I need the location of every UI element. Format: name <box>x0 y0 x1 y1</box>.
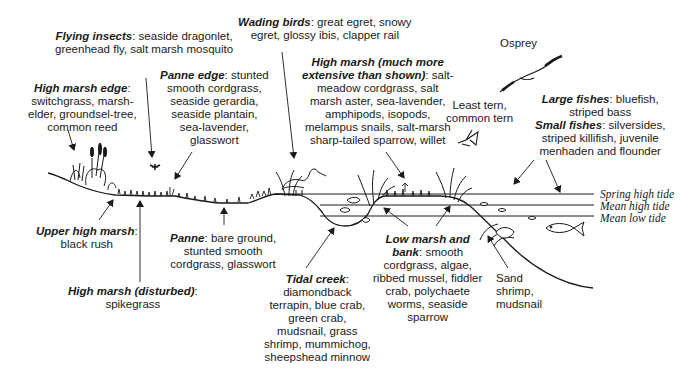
low-marsh-title: Low marsh and <box>385 233 469 245</box>
label-flying-insects: Flying insects: seaside dragonlet, green… <box>55 30 233 56</box>
fish-drawings <box>340 197 584 238</box>
panne-title: Panne <box>170 232 205 244</box>
terns-line: Least tern, <box>452 99 506 111</box>
wading-birds-line2: egret, glossy ibis, clapper rail <box>251 29 399 41</box>
tidal-creek-line: mudsnail, grass <box>277 325 358 337</box>
high-marsh-title: extensive than shown) <box>302 69 425 81</box>
terns-line: common tern <box>446 112 513 124</box>
label-low-marsh: Low marsh and bank: smooth cordgrass, al… <box>373 233 482 324</box>
label-high-marsh: High marsh (much more extensive than sho… <box>302 56 453 147</box>
tidal-creek-text: : <box>346 273 349 285</box>
low-marsh-line: sparrow <box>407 311 448 323</box>
low-marsh-line: ribbed mussel, fiddler <box>373 272 482 284</box>
label-high-marsh-edge: High marsh edge: switchgrass, marsh- eld… <box>28 82 137 134</box>
small-fishes-title: Small fishes <box>535 119 602 131</box>
high-marsh-line: melampus snails, salt-marsh <box>305 121 451 133</box>
low-marsh-text: : smooth <box>419 246 463 258</box>
label-high-marsh-disturbed: High marsh (disturbed): spikegrass <box>68 285 198 311</box>
tidal-creek-line: sheepshead minnow <box>265 351 371 363</box>
small-fishes-line: menhaden and flounder <box>539 145 661 157</box>
low-marsh-line: worms, seaside <box>388 298 468 310</box>
upper-high-marsh-title: Upper high marsh <box>36 225 134 237</box>
high-marsh-edge-line: elder, groundsel-tree, <box>28 108 137 120</box>
label-mean-low-tide: Mean low tide <box>600 212 666 225</box>
sand-shrimp-line: shrimp, <box>496 285 534 297</box>
panne-edge-title: Panne edge <box>160 69 225 81</box>
wading-birds-text: : great egret, snowy <box>311 16 412 28</box>
high-marsh-line: sharp-tailed sparrow, willet <box>310 134 446 146</box>
high-marsh-edge-line: common reed <box>47 121 117 133</box>
sand-shrimp-line: Sand <box>496 272 523 284</box>
tidal-creek-line: terrapin, blue crab, <box>269 299 365 311</box>
tidal-creek-line: shrimp, mummichog, <box>264 338 371 350</box>
tidal-creek-line: green crab, <box>288 312 346 324</box>
small-fishes-line: striped killifish, juvenile <box>542 132 659 144</box>
low-marsh-line: cordgrass, algae, <box>384 259 472 271</box>
label-terns: Least tern, common tern <box>446 99 513 125</box>
tern-drawing <box>458 130 478 146</box>
high-marsh-disturbed-title: High marsh (disturbed) <box>68 285 195 297</box>
flying-insects-text: : seaside dragonlet, <box>132 30 232 42</box>
upper-high-marsh-text: : <box>134 225 137 237</box>
tidal-creek-title: Tidal creek <box>286 273 346 285</box>
large-fishes-title: Large fishes <box>542 93 610 105</box>
panne-edge-line: glasswort <box>190 134 239 146</box>
label-upper-high-marsh: Upper high marsh: black rush <box>36 225 138 251</box>
high-marsh-edge-text: : <box>127 82 130 94</box>
panne-edge-line: smooth cordgrass, <box>167 82 262 94</box>
large-fishes-text: : bluefish, <box>609 93 658 105</box>
insect-drawing <box>150 164 160 170</box>
high-marsh-edge-title: High marsh edge <box>34 82 127 94</box>
large-fishes-line2: striped bass <box>569 106 631 118</box>
flying-insects-title: Flying insects <box>56 30 133 42</box>
high-marsh-line: amphipods, isopods, <box>325 108 430 120</box>
high-marsh-text: : salt- <box>425 69 453 81</box>
panne-line: cordgrass, glasswort <box>170 258 275 270</box>
tidal-creek-line: diamondback <box>283 286 351 298</box>
label-sand-shrimp: Sand shrimp, mudsnail <box>496 272 542 311</box>
high-marsh-edge-shrubs <box>70 143 116 190</box>
label-panne: Panne: bare ground, stunted smooth cordg… <box>170 232 276 271</box>
upper-high-marsh-line2: black rush <box>61 238 113 250</box>
panne-edge-line: sea-lavender, <box>180 121 249 133</box>
small-fishes-text: : silversides, <box>602 119 665 131</box>
panne-text: : bare ground, <box>205 232 277 244</box>
low-marsh-title: bank <box>392 246 419 258</box>
osprey-text: Osprey <box>500 37 537 49</box>
label-tidal-creek: Tidal creek: diamondback terrapin, blue … <box>264 273 371 364</box>
panne-edge-text: : stunted <box>225 69 269 81</box>
wading-birds-title: Wading birds <box>238 16 311 28</box>
label-panne-edge: Panne edge: stunted smooth cordgrass, se… <box>160 69 269 147</box>
panne-edge-line: seaside plantain, <box>171 108 257 120</box>
high-marsh-disturbed-text: : <box>195 285 198 297</box>
osprey-drawing <box>500 56 562 92</box>
salt-marsh-diagram: Flying insects: seaside dragonlet, green… <box>0 0 699 379</box>
marsh-grass-tufts <box>118 183 430 203</box>
panne-line: stunted smooth <box>184 245 263 257</box>
flying-insects-line2: greenhead fly, salt marsh mosquito <box>55 43 233 55</box>
label-fishes: Large fishes: bluefish, striped bass Sma… <box>535 93 665 158</box>
panne-edge-line: seaside gerardia, <box>170 95 258 107</box>
high-marsh-disturbed-line2: spikegrass <box>105 298 160 310</box>
high-marsh-line: meadow cordgrass, salt <box>317 82 438 94</box>
high-marsh-title: High marsh (much more <box>312 56 444 68</box>
high-marsh-line: marsh aster, sea-lavender, <box>310 95 446 107</box>
low-marsh-line: crab, polychaete <box>385 285 469 297</box>
sand-shrimp-line: mudsnail <box>496 298 542 310</box>
high-marsh-edge-line: switchgrass, marsh- <box>31 95 133 107</box>
label-wading-birds: Wading birds: great egret, snowy egret, … <box>238 16 412 42</box>
label-osprey: Osprey <box>500 37 537 50</box>
